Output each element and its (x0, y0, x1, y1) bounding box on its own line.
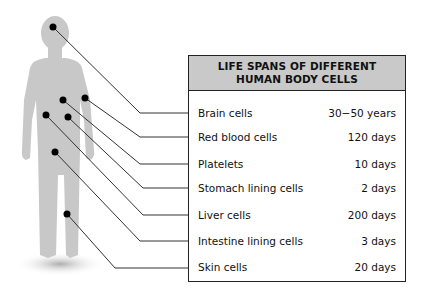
cell-lifespan: 120 days (348, 131, 396, 147)
table-title-line2: HUMAN BODY CELLS (236, 73, 358, 86)
cell-lifespan: 20 days (355, 261, 396, 277)
red-blood-dot (82, 95, 89, 102)
table-header: LIFE SPANS OF DIFFERENT HUMAN BODY CELLS (189, 56, 405, 91)
cell-lifespan: 3 days (361, 235, 396, 251)
floor-shadow (15, 252, 105, 276)
human-silhouette (22, 16, 94, 258)
cell-name: Liver cells (198, 209, 251, 225)
cell-name: Platelets (198, 158, 243, 174)
platelets-dot (60, 97, 67, 104)
table-row: Liver cells 200 days (198, 209, 396, 225)
cell-name: Brain cells (198, 107, 252, 123)
table-row: Skin cells 20 days (198, 261, 396, 277)
cell-name: Intestine lining cells (198, 235, 303, 251)
cell-lifespan: 10 days (355, 158, 396, 174)
stomach-dot (65, 114, 72, 121)
cell-lifespan: 200 days (348, 209, 396, 225)
table-row: Platelets 10 days (198, 158, 396, 174)
brain-dot (50, 24, 57, 31)
table-row: Brain cells 30−50 years (198, 107, 396, 123)
cell-name: Skin cells (198, 261, 247, 277)
skin-dot (64, 211, 71, 218)
cell-lifespan: 30−50 years (328, 107, 396, 123)
table-title-line1: LIFE SPANS OF DIFFERENT (218, 60, 376, 73)
cell-lifespan: 2 days (361, 182, 396, 198)
table-row: Red blood cells 120 days (198, 131, 396, 147)
table-row: Stomach lining cells 2 days (198, 182, 396, 198)
cell-name: Stomach lining cells (198, 182, 303, 198)
lifespan-table: LIFE SPANS OF DIFFERENT HUMAN BODY CELLS… (188, 55, 406, 282)
liver-dot (43, 112, 50, 119)
cell-name: Red blood cells (198, 131, 277, 147)
intestine-dot (52, 149, 59, 156)
table-row: Intestine lining cells 3 days (198, 235, 396, 251)
